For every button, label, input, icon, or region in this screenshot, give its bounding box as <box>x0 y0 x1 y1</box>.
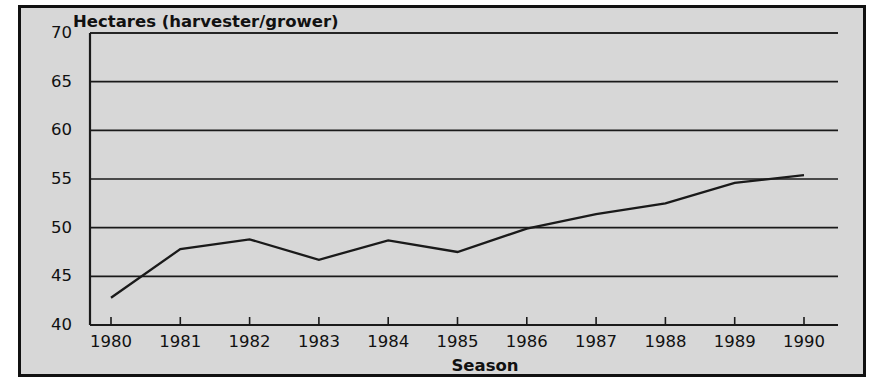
data-series-line <box>111 175 804 298</box>
chart-plot-area <box>0 0 885 389</box>
chart-page: Hectares (harvester/grower) 404550556065… <box>0 0 885 389</box>
x-axis-title: Season <box>425 356 545 375</box>
grid-lines <box>90 33 838 276</box>
axis-tick-marks <box>111 317 804 325</box>
